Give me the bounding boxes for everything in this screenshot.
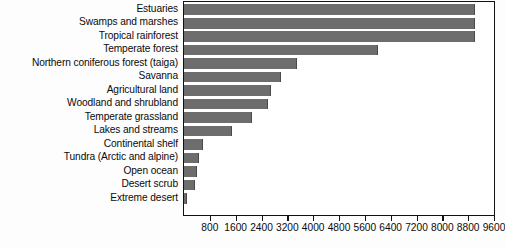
axis-tick-label: 1600 [224, 222, 247, 233]
category-label: Desert scrub [0, 177, 181, 190]
axis-tick-label: 3200 [276, 222, 299, 233]
axis-tick-label: 8000 [431, 222, 454, 233]
axis-tick [262, 216, 263, 221]
bar [184, 4, 475, 15]
bar [184, 31, 475, 42]
bar [184, 112, 252, 123]
category-label: Extreme desert [0, 191, 181, 204]
category-label: Tundra (Arctic and alpine) [0, 150, 181, 163]
category-label: Woodland and shrubland [0, 96, 181, 109]
bar [184, 126, 232, 137]
bar [184, 139, 203, 150]
bar [184, 18, 475, 29]
axis-tick [417, 216, 418, 221]
category-label: Swamps and marshes [0, 15, 181, 28]
category-label: Tropical rainforest [0, 29, 181, 42]
bar [184, 58, 297, 69]
bar-row [184, 43, 494, 56]
bar-row [184, 30, 494, 43]
axis-tick-label: 7200 [405, 222, 428, 233]
bar-row [184, 165, 494, 178]
axis-tick [287, 216, 288, 221]
axis-tick-label: 8800 [457, 222, 480, 233]
category-axis-labels: EstuariesSwamps and marshesTropical rain… [0, 2, 181, 210]
category-label: Savanna [0, 69, 181, 82]
bar-row [184, 151, 494, 164]
bar-row [184, 97, 494, 110]
axis-tick-label: 4800 [328, 222, 351, 233]
bars-layer [184, 2, 494, 209]
bar [184, 193, 187, 204]
axis-tick [236, 216, 237, 221]
bar [184, 180, 195, 191]
bar [184, 166, 197, 177]
category-label: Agricultural land [0, 83, 181, 96]
bar-row [184, 192, 494, 205]
category-label: Northern coniferous forest (taiga) [0, 56, 181, 69]
bar-row [184, 111, 494, 124]
axis-tick-label: 800 [201, 222, 218, 233]
axis-tick [365, 216, 366, 221]
bar-row [184, 124, 494, 137]
axis-tick [313, 216, 314, 221]
axis-tick-label: 5600 [353, 222, 376, 233]
bar-chart: EstuariesSwamps and marshesTropical rain… [0, 0, 505, 249]
bar-row [184, 57, 494, 70]
axis-tick [442, 216, 443, 221]
bar [184, 153, 199, 164]
axis-tick-label: 2400 [250, 222, 273, 233]
category-label: Lakes and streams [0, 123, 181, 136]
bar-row [184, 3, 494, 16]
axis-tick-label: 6400 [379, 222, 402, 233]
axis-tick-label: 9600 [483, 222, 505, 233]
axis-tick [391, 216, 392, 221]
axis-tick [339, 216, 340, 221]
bar-row [184, 84, 494, 97]
axis-tick [210, 216, 211, 221]
axis-tick [468, 216, 469, 221]
bar [184, 99, 268, 110]
bar [184, 85, 271, 96]
bar-row [184, 70, 494, 83]
bar-row [184, 16, 494, 29]
bar [184, 45, 378, 56]
category-label: Temperate grassland [0, 110, 181, 123]
plot-area [183, 1, 495, 216]
category-label: Open ocean [0, 164, 181, 177]
bar [184, 72, 281, 83]
category-label: Estuaries [0, 2, 181, 15]
bar-row [184, 178, 494, 191]
value-axis: 8001600240032004000480056006400720080008… [183, 216, 495, 249]
axis-tick [494, 216, 495, 221]
bar-row [184, 138, 494, 151]
category-label: Continental shelf [0, 137, 181, 150]
axis-tick-label: 4000 [302, 222, 325, 233]
category-label: Temperate forest [0, 42, 181, 55]
